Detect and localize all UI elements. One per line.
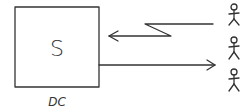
datacenter-caption: DC: [48, 95, 66, 109]
diagram-canvas: S DC: [0, 0, 252, 112]
user-figure-3: [229, 69, 239, 91]
server-label: S: [50, 36, 64, 61]
server-box: S: [15, 7, 99, 87]
response-arrow: [99, 60, 215, 70]
user-figure-2: [229, 37, 239, 59]
user-figure-1: [229, 4, 239, 25]
wireless-request-arrow: [109, 24, 213, 41]
